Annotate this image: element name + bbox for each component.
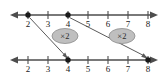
bottom-point-8 (145, 57, 150, 62)
bottom-tick-label-6: 6 (102, 64, 114, 74)
bottom-left-arrowhead (10, 57, 18, 64)
bottom-tick-label-4: 4 (62, 64, 74, 74)
top-right-arrowhead (150, 12, 158, 19)
top-tick-label-4: 4 (62, 19, 74, 29)
operation-label-2: ×2 (110, 31, 134, 42)
double-number-line-figure: 2 3 4 5 6 7 8 2 3 4 5 6 7 8 ×2 ×2 (0, 0, 164, 77)
bottom-point-4 (65, 57, 70, 62)
bottom-tick-label-8: 8 (142, 64, 154, 74)
bottom-tick-label-3: 3 (42, 64, 54, 74)
top-tick-label-8: 8 (142, 19, 154, 29)
top-tick-label-6: 6 (102, 19, 114, 29)
top-point-2 (25, 12, 30, 17)
operation-label-1: ×2 (53, 31, 77, 42)
bottom-tick-label-5: 5 (82, 64, 94, 74)
top-point-4 (65, 12, 70, 17)
bottom-number-line-group (10, 56, 158, 64)
top-number-line-group (10, 11, 158, 19)
bottom-tick-label-7: 7 (122, 64, 134, 74)
top-tick-label-7: 7 (122, 19, 134, 29)
top-tick-label-2: 2 (22, 19, 34, 29)
bottom-tick-label-2: 2 (22, 64, 34, 74)
top-tick-label-3: 3 (42, 19, 54, 29)
bottom-right-arrowhead (150, 57, 158, 64)
top-tick-label-5: 5 (82, 19, 94, 29)
top-left-arrowhead (10, 12, 18, 19)
